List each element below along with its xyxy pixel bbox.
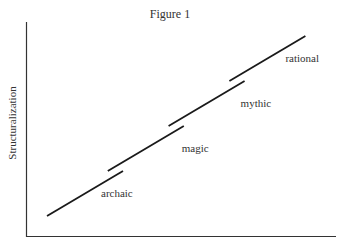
stage-segments: [47, 36, 305, 216]
y-axis-label: Structuralization: [6, 86, 18, 160]
stage-labels: archaicmagicmythicrational: [101, 52, 319, 199]
segment-mythic: [169, 81, 245, 126]
label-mythic: mythic: [241, 97, 272, 109]
figure: Figure 1 Structuralization archaicmagicm…: [0, 0, 341, 245]
segment-magic: [108, 126, 184, 171]
figure-title: Figure 1: [150, 7, 190, 21]
label-archaic: archaic: [101, 187, 133, 199]
label-magic: magic: [182, 142, 209, 154]
label-rational: rational: [285, 52, 319, 64]
